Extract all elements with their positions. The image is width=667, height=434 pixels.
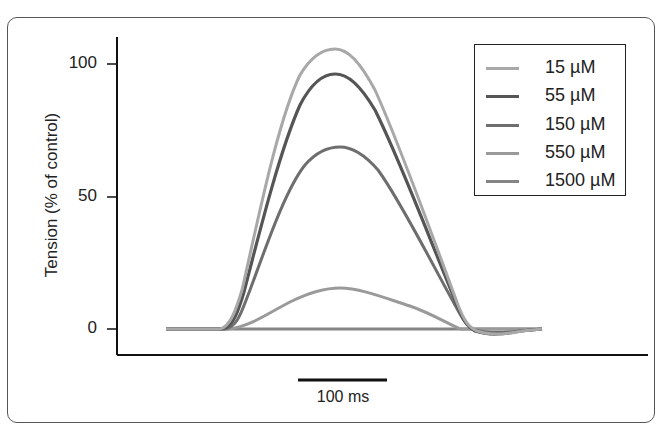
legend: 15 µM 55 µM 150 µM 550 µM 1500 µM (474, 44, 626, 196)
legend-swatch (486, 180, 519, 183)
legend-item-15uM: 15 µM (475, 54, 625, 82)
series-550uM (166, 288, 542, 329)
legend-label: 550 µM (545, 142, 605, 163)
legend-item-1500uM: 1500 µM (475, 167, 625, 195)
legend-item-550uM: 550 µM (475, 139, 625, 167)
legend-label: 15 µM (545, 57, 595, 78)
legend-swatch (486, 95, 519, 98)
legend-label: 55 µM (545, 85, 595, 106)
legend-item-55uM: 55 µM (475, 82, 625, 110)
scale-bar-label: 100 ms (298, 388, 388, 406)
legend-label: 150 µM (545, 114, 605, 135)
legend-swatch (486, 152, 519, 155)
legend-swatch (486, 67, 519, 70)
y-axis-label: Tension (% of control) (42, 95, 62, 295)
legend-swatch (486, 124, 519, 127)
y-tick-label-0: 0 (37, 318, 97, 338)
y-tick-label-100: 100 (37, 53, 97, 73)
legend-label: 1500 µM (545, 170, 615, 191)
legend-item-150uM: 150 µM (475, 111, 625, 139)
